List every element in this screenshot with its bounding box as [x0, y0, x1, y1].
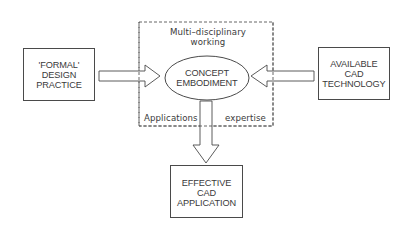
- formal-design-practice-label: 'FORMAL' DESIGN PRACTICE: [23, 60, 95, 90]
- label-line: Multi–disciplinary: [150, 27, 266, 37]
- arrow-down-icon: [193, 101, 219, 163]
- multidisciplinary-working-label: Multi–disciplinary working: [150, 27, 266, 47]
- available-cad-technology-label: AVAILABLE CAD TECHNOLOGY: [318, 59, 390, 89]
- effective-cad-application-label: EFFECTIVE CAD APPLICATION: [170, 178, 243, 208]
- label-line: CAD: [170, 188, 243, 198]
- label-line: working: [150, 37, 266, 47]
- label-line: EMBODIMENT: [166, 78, 248, 88]
- applications-label: Applications: [144, 113, 198, 123]
- label-line: DESIGN: [23, 70, 95, 80]
- concept-embodiment-label: CONCEPT EMBODIMENT: [166, 68, 248, 88]
- arrow-left-icon: [251, 65, 314, 87]
- label-line: 'FORMAL': [23, 60, 95, 70]
- expertise-label: expertise: [225, 113, 266, 123]
- label-line: PRACTICE: [23, 80, 95, 90]
- label-line: EFFECTIVE: [170, 178, 243, 188]
- label-line: CONCEPT: [166, 68, 248, 78]
- arrow-right-icon: [99, 65, 160, 87]
- label-line: APPLICATION: [170, 198, 243, 208]
- label-line: CAD: [318, 69, 390, 79]
- label-line: AVAILABLE: [318, 59, 390, 69]
- label-line: TECHNOLOGY: [318, 79, 390, 89]
